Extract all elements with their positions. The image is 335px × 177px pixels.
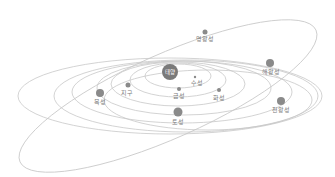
solar-system-diagram: 태양 수성 금성 지구 화성 목성 토성 천왕성 해왕성 명왕성 — [0, 0, 335, 177]
saturn-icon — [174, 108, 183, 117]
saturn-label: 토성 — [172, 118, 184, 125]
planet-mars: 화성 — [213, 88, 225, 102]
planet-saturn: 토성 — [172, 108, 184, 126]
earth-icon — [126, 83, 131, 88]
earth-label: 지구 — [121, 89, 133, 97]
venus-icon — [177, 87, 181, 91]
orbit-pluto — [3, 0, 333, 177]
mercury-icon — [194, 76, 196, 78]
planet-mercury: 수성 — [191, 76, 203, 87]
orbits — [3, 0, 333, 177]
venus-label: 금성 — [173, 92, 185, 99]
planet-pluto: 명왕성 — [196, 30, 214, 43]
jupiter-label: 목성 — [94, 98, 106, 106]
mercury-label: 수성 — [191, 79, 203, 87]
sun: 태양 — [162, 64, 178, 80]
neptune-icon — [266, 59, 274, 67]
uranus-label: 천왕성 — [272, 106, 290, 113]
sun-label: 태양 — [165, 68, 175, 76]
neptune-label: 해왕성 — [262, 68, 280, 76]
pluto-icon — [203, 30, 208, 35]
planet-uranus: 천왕성 — [272, 97, 290, 113]
uranus-icon — [277, 97, 285, 105]
planet-jupiter: 목성 — [94, 89, 106, 106]
planet-neptune: 해왕성 — [262, 59, 280, 76]
planet-earth: 지구 — [121, 83, 133, 98]
planet-venus: 금성 — [173, 87, 185, 99]
mars-icon — [217, 88, 221, 92]
pluto-label: 명왕성 — [196, 35, 214, 42]
jupiter-icon — [96, 89, 104, 97]
mars-label: 화성 — [213, 94, 225, 102]
